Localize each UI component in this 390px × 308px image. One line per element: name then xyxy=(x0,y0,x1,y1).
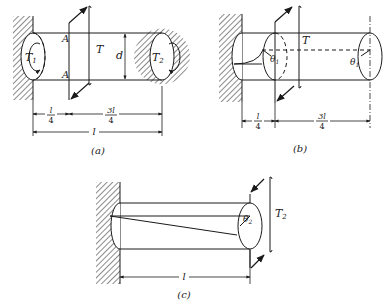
label-T2-c: T2 xyxy=(275,207,287,221)
dim-b-left-den: 4 xyxy=(255,122,260,131)
caption-c: (c) xyxy=(177,289,191,300)
label-A-top: A xyxy=(61,33,69,44)
dim-a-right-den: 4 xyxy=(108,116,113,125)
dim-c-total: l xyxy=(182,271,185,282)
dim-a-total: l xyxy=(92,126,95,137)
caption-b: (b) xyxy=(293,143,307,154)
label-d: d xyxy=(116,49,123,62)
label-T-b: T xyxy=(302,34,311,47)
dim-b-right-num: 3l xyxy=(318,112,326,121)
label-T: T xyxy=(96,43,105,56)
dim-a-right-num: 3l xyxy=(107,106,115,115)
dim-b-left-num: l xyxy=(257,112,260,121)
panel-b: θ1 θ1 T l 4 3l 4 (b) xyxy=(219,6,382,154)
shaft-torsion-figure: T1 T2 T A A d l 4 3l 4 l (a) xyxy=(0,0,390,308)
dim-a-left-den: 4 xyxy=(48,116,53,125)
panel-c: θ2 T2 l (c) xyxy=(96,177,287,300)
caption-a: (a) xyxy=(91,145,105,156)
dim-a-left-num: l xyxy=(50,106,53,115)
label-A-bottom: A xyxy=(61,69,69,80)
dim-b-right-den: 4 xyxy=(319,122,324,131)
panel-a: T1 T2 T A A d l 4 3l 4 l (a) xyxy=(13,6,190,156)
